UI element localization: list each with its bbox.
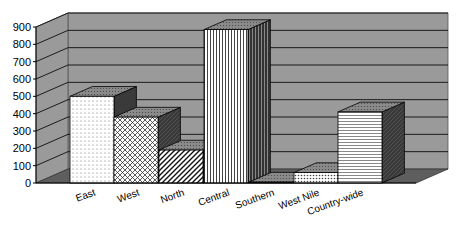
y-tick-label: 800 [13, 38, 31, 50]
x-tick-label: West [116, 186, 141, 204]
x-tick-label: East [74, 186, 97, 203]
bar-country-wide [338, 102, 404, 183]
x-tick-label: Southern [234, 187, 276, 211]
bar-chart-3d: 0100200300400500600700800900EastWestNort… [0, 0, 458, 235]
plot-area: 0100200300400500600700800900EastWestNort… [13, 13, 448, 217]
y-tick-label: 100 [13, 160, 31, 172]
y-tick-label: 300 [13, 125, 31, 137]
y-tick-label: 600 [13, 73, 31, 85]
y-tick-label: 200 [13, 142, 31, 154]
bar-central [204, 20, 270, 183]
y-tick-label: 700 [13, 56, 31, 68]
x-tick-label: North [159, 187, 186, 206]
y-tick-label: 900 [13, 21, 31, 33]
y-tick-label: 400 [13, 108, 31, 120]
y-tick-label: 500 [13, 90, 31, 102]
y-tick-label: 0 [25, 177, 31, 189]
side-wall [36, 13, 68, 183]
x-tick-label: Central [197, 187, 231, 208]
